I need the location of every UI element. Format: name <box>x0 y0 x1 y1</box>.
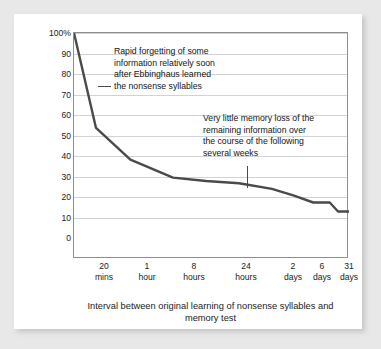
y-tick-label: 40 <box>61 151 71 161</box>
plot-area: 100% 90 80 70 60 50 40 30 20 10 0 Rapid … <box>73 32 348 258</box>
y-tick-label: 20 <box>61 192 71 202</box>
y-tick-label: 50 <box>61 131 71 141</box>
x-tick-unit: days <box>329 272 369 283</box>
x-tick-value: 1 <box>127 261 167 272</box>
x-tick-label-1-hour: 1 hour <box>127 261 167 283</box>
annotation-little-memory-loss: Very little memory loss of the remaining… <box>203 113 314 160</box>
y-tick-label: 60 <box>61 110 71 120</box>
x-tick-label-8-hours: 8 hours <box>174 261 214 283</box>
y-tick-label: 80 <box>61 69 71 79</box>
y-tick-label: 90 <box>61 49 71 59</box>
x-tick-value: 8 <box>174 261 214 272</box>
annotation-leader-line <box>98 86 111 87</box>
page-background: Average percentage of information retain… <box>0 0 381 349</box>
x-tick-label-24-hours: 24 hours <box>226 261 266 283</box>
annotation-leader-line <box>247 166 248 188</box>
x-tick-unit: mins <box>84 272 124 283</box>
figure-card: Average percentage of information retain… <box>14 14 362 329</box>
x-tick-value: 31 <box>329 261 369 272</box>
x-tick-unit: hours <box>174 272 214 283</box>
y-tick-label: 0 <box>66 233 71 243</box>
x-tick-value: 24 <box>226 261 266 272</box>
y-tick-label: 70 <box>61 90 71 100</box>
y-tick-label: 100% <box>49 28 71 38</box>
x-tick-value: 20 <box>84 261 124 272</box>
x-tick-unit: hour <box>127 272 167 283</box>
x-tick-unit: hours <box>226 272 266 283</box>
x-tick-label-20-mins: 20 mins <box>84 261 124 283</box>
y-tick-label: 10 <box>61 213 71 223</box>
annotation-rapid-forgetting: Rapid forgetting of some information rel… <box>114 46 215 93</box>
x-tick-label-31-days: 31 days <box>329 261 369 283</box>
y-tick-label: 30 <box>61 172 71 182</box>
x-axis-title: Interval between original learning of no… <box>73 300 348 325</box>
